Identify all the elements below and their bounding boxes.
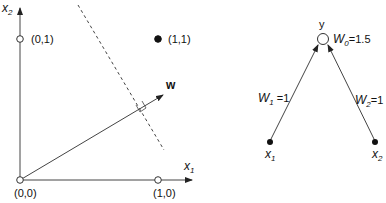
point-0-0-label: (0,0)	[14, 187, 37, 199]
x1-axis-label: x1	[183, 159, 194, 175]
weight2-label: W2=1	[355, 93, 383, 109]
decision-boundary-line	[78, 5, 164, 150]
edge-x2-to-y	[328, 45, 375, 141]
point-0-1-label: (0,1)	[31, 33, 54, 45]
input2-label: x2	[371, 147, 383, 163]
input1-label: x1	[264, 147, 275, 163]
feature-space-plot: x2 x1 w (0,0) (1,0) (0,1) (1,1)	[1, 1, 194, 199]
perceptron-network: y W0=1.5 W1 =1 W2=1 x1 x2	[258, 18, 383, 163]
weight1-label: W1 =1	[258, 91, 289, 107]
point-1-0	[155, 177, 162, 184]
weight-vector-label: w	[165, 78, 176, 92]
output-label: y	[319, 18, 325, 30]
point-0-1	[17, 36, 24, 43]
output-node	[318, 34, 329, 45]
input-node-x1	[267, 139, 273, 145]
point-1-1	[155, 36, 162, 43]
input-node-x2	[372, 139, 378, 145]
point-1-1-label: (1,1)	[168, 33, 191, 45]
point-1-0-label: (1,0)	[153, 187, 176, 199]
bias-label: W0=1.5	[333, 32, 371, 48]
point-0-0	[17, 177, 24, 184]
x2-axis-label: x2	[1, 1, 13, 17]
weight-vector-arrow	[20, 95, 163, 180]
perceptron-diagram: x2 x1 w (0,0) (1,0) (0,1) (1,1) y W0=1.5…	[0, 0, 386, 203]
